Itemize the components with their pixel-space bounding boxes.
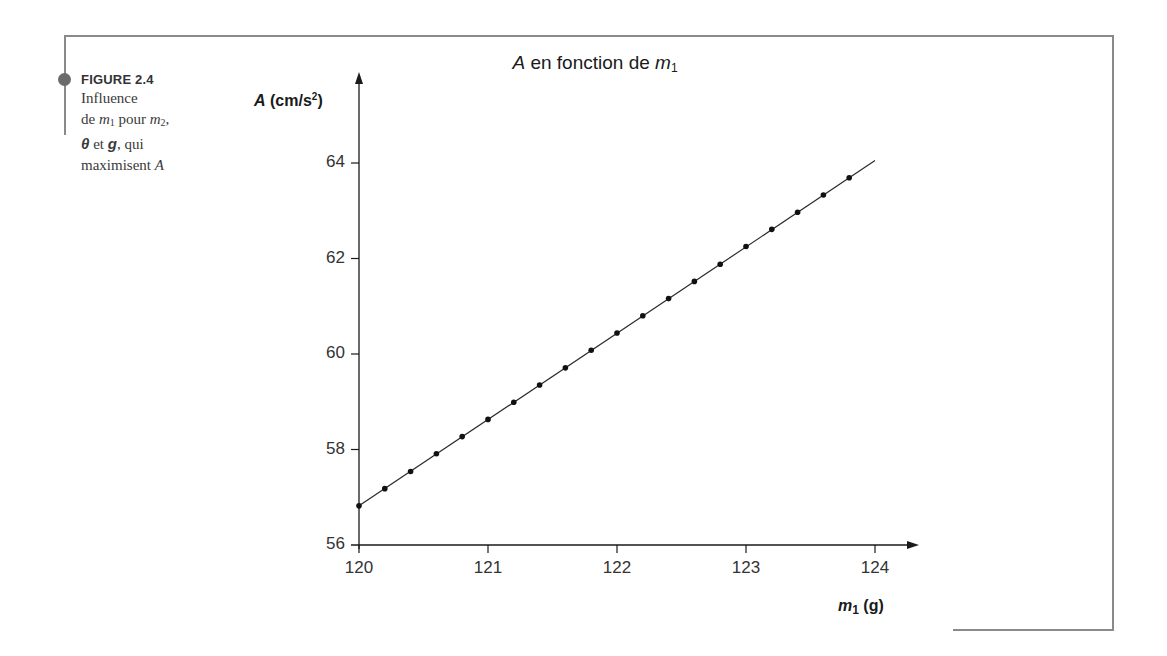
y-axis-arrow-icon [355,72,363,84]
data-point [795,209,801,215]
data-point [717,261,723,267]
line-chart [0,0,1167,656]
data-point [821,192,827,198]
x-axis-arrow-icon [907,541,919,549]
data-point [640,313,646,319]
data-point [434,451,440,457]
chart-axes [351,72,919,553]
data-point [511,399,517,405]
data-point [614,330,620,336]
data-point [743,244,749,250]
data-point [692,279,698,285]
data-point [382,486,388,492]
data-point [666,296,672,302]
data-point [459,434,465,440]
data-point [846,175,852,181]
data-point [563,365,569,371]
data-series [356,161,875,509]
data-point [408,469,414,475]
data-point [356,503,362,509]
data-point [537,382,543,388]
data-point [588,347,594,353]
data-point [485,417,491,423]
data-point [769,227,775,233]
